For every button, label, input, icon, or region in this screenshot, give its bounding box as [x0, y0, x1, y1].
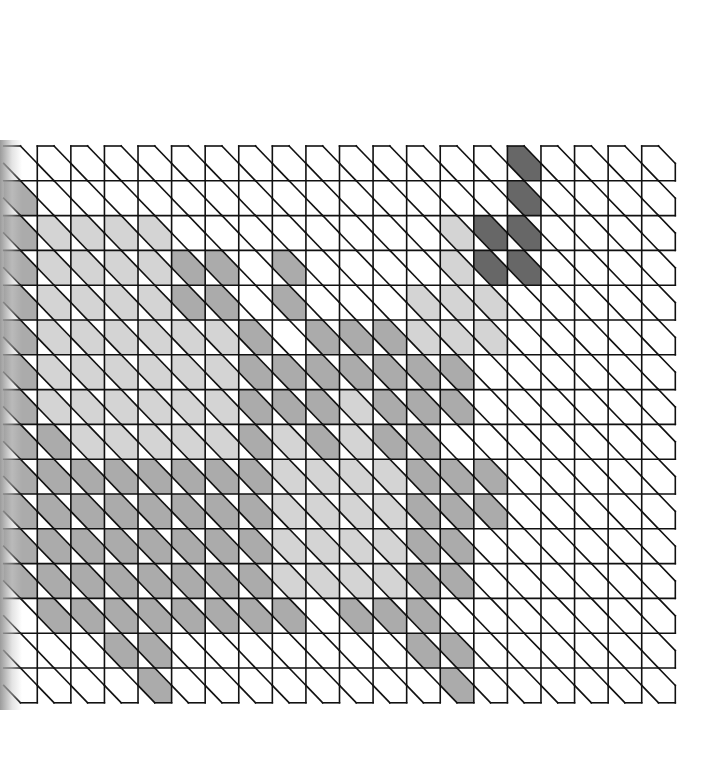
board-cell[interactable]: [340, 424, 374, 459]
board-cell[interactable]: [608, 633, 642, 668]
board-cell[interactable]: [440, 668, 474, 703]
board-cell[interactable]: [138, 564, 172, 599]
board-cell[interactable]: [541, 285, 575, 320]
board-cell[interactable]: [272, 633, 306, 668]
board-cell[interactable]: [205, 459, 239, 494]
board-cell[interactable]: [239, 529, 273, 564]
board-cell[interactable]: [440, 250, 474, 285]
board-cell[interactable]: [239, 181, 273, 216]
board-cell[interactable]: [205, 598, 239, 633]
board-cell[interactable]: [205, 633, 239, 668]
board-cell[interactable]: [608, 424, 642, 459]
board-cell[interactable]: [407, 146, 441, 181]
board-cell[interactable]: [37, 320, 71, 355]
board-cell[interactable]: [340, 633, 374, 668]
board-cell[interactable]: [541, 250, 575, 285]
board-cell[interactable]: [373, 598, 407, 633]
board-cell[interactable]: [642, 424, 676, 459]
board-cell[interactable]: [440, 216, 474, 251]
board-cell[interactable]: [138, 390, 172, 425]
board-cell[interactable]: [71, 564, 105, 599]
board-cell[interactable]: [474, 146, 508, 181]
board-cell[interactable]: [373, 355, 407, 390]
board-cell[interactable]: [541, 598, 575, 633]
board-cell[interactable]: [306, 181, 340, 216]
board-cell[interactable]: [138, 668, 172, 703]
board-cell[interactable]: [575, 181, 609, 216]
board-cell[interactable]: [340, 285, 374, 320]
board-cell[interactable]: [541, 494, 575, 529]
board-cell[interactable]: [474, 285, 508, 320]
board-cell[interactable]: [407, 216, 441, 251]
board-cell[interactable]: [340, 390, 374, 425]
board-cell[interactable]: [440, 494, 474, 529]
board-cell[interactable]: [272, 390, 306, 425]
board-cell[interactable]: [608, 285, 642, 320]
board-cell[interactable]: [172, 529, 206, 564]
board-cell[interactable]: [138, 320, 172, 355]
board-cell[interactable]: [272, 285, 306, 320]
board-cell[interactable]: [507, 598, 541, 633]
board-cell[interactable]: [642, 564, 676, 599]
board-cell[interactable]: [71, 181, 105, 216]
board-cell[interactable]: [306, 216, 340, 251]
board-cell[interactable]: [407, 564, 441, 599]
board-cell[interactable]: [272, 181, 306, 216]
board-cell[interactable]: [205, 529, 239, 564]
board-cell[interactable]: [474, 668, 508, 703]
board-cell[interactable]: [306, 494, 340, 529]
board-cell[interactable]: [340, 216, 374, 251]
board-cell[interactable]: [272, 320, 306, 355]
board-cell[interactable]: [642, 390, 676, 425]
board-cell[interactable]: [37, 424, 71, 459]
board-cell[interactable]: [37, 355, 71, 390]
board-cell[interactable]: [507, 146, 541, 181]
board-cell[interactable]: [440, 424, 474, 459]
board-cell[interactable]: [407, 390, 441, 425]
board-cell[interactable]: [104, 494, 138, 529]
board-cell[interactable]: [239, 424, 273, 459]
board-cell[interactable]: [272, 250, 306, 285]
board-cell[interactable]: [541, 181, 575, 216]
board-cell[interactable]: [138, 459, 172, 494]
board-cell[interactable]: [306, 598, 340, 633]
board-cell[interactable]: [507, 459, 541, 494]
board-cell[interactable]: [306, 285, 340, 320]
board-cell[interactable]: [306, 633, 340, 668]
board-cell[interactable]: [575, 285, 609, 320]
board-cell[interactable]: [642, 494, 676, 529]
board-cell[interactable]: [71, 598, 105, 633]
board-cell[interactable]: [306, 668, 340, 703]
board-cell[interactable]: [71, 459, 105, 494]
board-cell[interactable]: [575, 216, 609, 251]
board-cell[interactable]: [306, 459, 340, 494]
board-cell[interactable]: [172, 390, 206, 425]
board-cell[interactable]: [608, 529, 642, 564]
board-cell[interactable]: [507, 285, 541, 320]
board-cell[interactable]: [407, 459, 441, 494]
board-cell[interactable]: [507, 424, 541, 459]
board-cell[interactable]: [37, 216, 71, 251]
board-cell[interactable]: [71, 633, 105, 668]
board-cell[interactable]: [239, 390, 273, 425]
board-cell[interactable]: [642, 459, 676, 494]
board-cell[interactable]: [172, 181, 206, 216]
board-cell[interactable]: [407, 285, 441, 320]
board-cell[interactable]: [340, 459, 374, 494]
board-cell[interactable]: [104, 564, 138, 599]
board-cell[interactable]: [541, 529, 575, 564]
board-cell[interactable]: [440, 146, 474, 181]
board-cell[interactable]: [407, 598, 441, 633]
board-cell[interactable]: [340, 494, 374, 529]
board-cell[interactable]: [474, 424, 508, 459]
board-cell[interactable]: [104, 355, 138, 390]
board-cell[interactable]: [507, 564, 541, 599]
board-cell[interactable]: [642, 181, 676, 216]
board-cell[interactable]: [642, 529, 676, 564]
board-cell[interactable]: [71, 285, 105, 320]
board-cell[interactable]: [37, 390, 71, 425]
board-cell[interactable]: [440, 529, 474, 564]
board-cell[interactable]: [138, 250, 172, 285]
board-cell[interactable]: [507, 668, 541, 703]
board-cell[interactable]: [71, 668, 105, 703]
